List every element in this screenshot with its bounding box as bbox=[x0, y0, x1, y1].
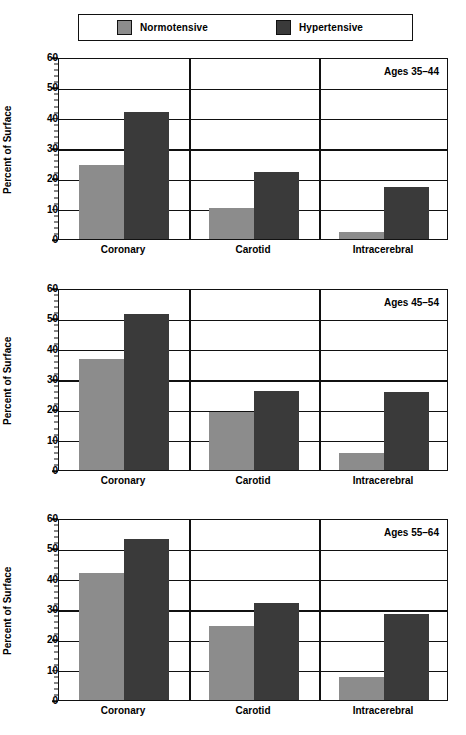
chart-panel-ages-35-44: Percent of Surface 0102030405060 Ages 35… bbox=[0, 50, 466, 288]
y-axis-ticks: 0102030405060 bbox=[0, 519, 58, 701]
group-divider bbox=[319, 59, 321, 239]
y-tick-label: 30 bbox=[34, 605, 58, 615]
group-divider bbox=[319, 520, 321, 700]
plot-area: Ages 55–64 bbox=[58, 519, 448, 701]
y-tick-label: 30 bbox=[34, 375, 58, 385]
y-axis-ticks: 0102030405060 bbox=[0, 289, 58, 471]
y-tick-label: 60 bbox=[34, 514, 58, 524]
legend-swatch-normotensive bbox=[117, 20, 132, 35]
chart-panel-ages-45-54: Percent of Surface 0102030405060 Ages 45… bbox=[0, 281, 466, 519]
x-axis-label-carotid: Carotid bbox=[236, 475, 271, 486]
group-divider bbox=[319, 290, 321, 470]
x-axis-label-intracerebral: Intracerebral bbox=[353, 475, 414, 486]
y-tick-label: 60 bbox=[34, 53, 58, 63]
y-tick-label: 40 bbox=[34, 345, 58, 355]
bar-hypertensive-coronary bbox=[124, 112, 169, 239]
bar-hypertensive-carotid bbox=[254, 391, 299, 470]
y-tick-label: 0 bbox=[34, 235, 58, 245]
x-axis-label-intracerebral: Intracerebral bbox=[353, 705, 414, 716]
gridline bbox=[59, 550, 447, 552]
x-axis-labels: CoronaryCarotidIntracerebral bbox=[58, 705, 448, 721]
legend-entry-normotensive: Normotensive bbox=[117, 15, 208, 40]
x-axis-labels: CoronaryCarotidIntracerebral bbox=[58, 475, 448, 491]
y-tick-label: 10 bbox=[34, 436, 58, 446]
chart-page: Normotensive Hypertensive Percent of Sur… bbox=[0, 0, 466, 735]
y-tick-label: 60 bbox=[34, 284, 58, 294]
bar-normotensive-intracerebral bbox=[339, 677, 384, 700]
group-divider bbox=[189, 520, 191, 700]
y-axis-ticks: 0102030405060 bbox=[0, 58, 58, 240]
x-axis-label-intracerebral: Intracerebral bbox=[353, 244, 414, 255]
y-tick-label: 50 bbox=[34, 544, 58, 554]
y-tick-label: 40 bbox=[34, 575, 58, 585]
panel-annotation: Ages 45–54 bbox=[384, 297, 439, 308]
gridline bbox=[59, 119, 447, 121]
y-tick-label: 0 bbox=[34, 466, 58, 476]
bar-normotensive-intracerebral bbox=[339, 453, 384, 470]
legend-label-hypertensive: Hypertensive bbox=[299, 22, 363, 33]
legend-swatch-hypertensive bbox=[276, 20, 291, 35]
bar-normotensive-carotid bbox=[209, 412, 254, 470]
y-tick-label: 50 bbox=[34, 83, 58, 93]
bar-hypertensive-intracerebral bbox=[384, 187, 429, 239]
x-axis-labels: CoronaryCarotidIntracerebral bbox=[58, 244, 448, 260]
bar-hypertensive-coronary bbox=[124, 314, 169, 470]
x-axis-label-coronary: Coronary bbox=[101, 705, 145, 716]
y-tick-label: 50 bbox=[34, 314, 58, 324]
y-tick-label: 20 bbox=[34, 635, 58, 645]
bar-hypertensive-carotid bbox=[254, 603, 299, 700]
plot-area: Ages 35–44 bbox=[58, 58, 448, 240]
chart-legend: Normotensive Hypertensive bbox=[78, 14, 413, 41]
y-tick-label: 10 bbox=[34, 205, 58, 215]
bar-normotensive-coronary bbox=[79, 573, 124, 700]
x-axis-label-coronary: Coronary bbox=[101, 244, 145, 255]
gridline bbox=[59, 320, 447, 322]
plot-area: Ages 45–54 bbox=[58, 289, 448, 471]
x-axis-label-coronary: Coronary bbox=[101, 475, 145, 486]
gridline bbox=[59, 350, 447, 352]
bar-normotensive-carotid bbox=[209, 208, 254, 239]
legend-label-normotensive: Normotensive bbox=[140, 22, 208, 33]
panel-annotation: Ages 35–44 bbox=[384, 66, 439, 77]
bar-hypertensive-carotid bbox=[254, 172, 299, 239]
panel-annotation: Ages 55–64 bbox=[384, 527, 439, 538]
bar-hypertensive-intracerebral bbox=[384, 392, 429, 470]
bar-normotensive-intracerebral bbox=[339, 232, 384, 239]
x-axis-label-carotid: Carotid bbox=[236, 705, 271, 716]
group-divider bbox=[189, 59, 191, 239]
gridline bbox=[59, 149, 447, 151]
y-tick-label: 0 bbox=[34, 696, 58, 706]
bar-normotensive-coronary bbox=[79, 165, 124, 239]
group-divider bbox=[189, 290, 191, 470]
chart-panel-ages-55-64: Percent of Surface 0102030405060 Ages 55… bbox=[0, 511, 466, 735]
y-tick-label: 40 bbox=[34, 114, 58, 124]
y-tick-label: 30 bbox=[34, 144, 58, 154]
x-axis-label-carotid: Carotid bbox=[236, 244, 271, 255]
bar-normotensive-coronary bbox=[79, 359, 124, 470]
legend-entry-hypertensive: Hypertensive bbox=[276, 15, 363, 40]
gridline bbox=[59, 89, 447, 91]
bar-hypertensive-coronary bbox=[124, 539, 169, 700]
y-tick-label: 10 bbox=[34, 666, 58, 676]
bar-normotensive-carotid bbox=[209, 626, 254, 700]
y-tick-label: 20 bbox=[34, 405, 58, 415]
bar-hypertensive-intracerebral bbox=[384, 614, 429, 700]
y-tick-label: 20 bbox=[34, 174, 58, 184]
